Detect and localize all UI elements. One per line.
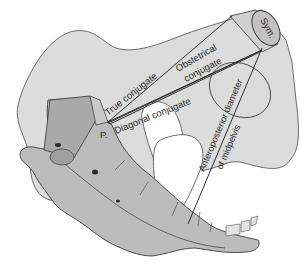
label-promontory: P.	[100, 129, 108, 140]
articular-process	[50, 149, 74, 165]
pelvis-diagram: Sym. P. True conjugate Obstetrical conju…	[0, 0, 302, 264]
coccyx	[226, 216, 258, 236]
